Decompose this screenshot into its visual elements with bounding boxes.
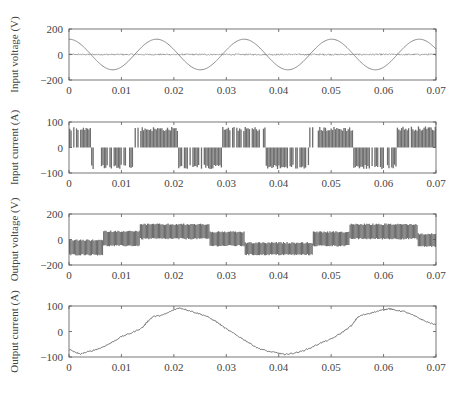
plot-area: [70, 224, 436, 256]
y-axis-label: Input current (A): [8, 110, 21, 185]
y-tick-label: 0: [58, 234, 64, 246]
subplot-1: 00.010.020.030.040.050.060.072000−200Inp…: [8, 16, 446, 96]
plot-area: [70, 126, 436, 169]
y-tick-label: 200: [47, 208, 64, 220]
x-tick-label: 0.01: [112, 84, 131, 96]
subplot-4: 00.010.020.030.040.050.060.071000−100Out…: [8, 290, 446, 373]
x-tick-label: 0.07: [426, 269, 446, 281]
plot-area: [69, 308, 436, 355]
y-tick-label: 0: [58, 326, 64, 338]
x-tick-label: 0.05: [322, 177, 342, 189]
x-tick-label: 0.04: [269, 177, 289, 189]
x-tick-label: 0.06: [374, 84, 394, 96]
x-tick-label: 0.03: [217, 177, 237, 189]
x-tick-label: 0.05: [322, 84, 342, 96]
y-tick-label: 0: [58, 142, 64, 154]
y-axis-label: Input voltage (V): [8, 16, 21, 93]
subplot-2: 00.010.020.030.040.050.060.071000−100Inp…: [8, 110, 446, 189]
series-line: [69, 308, 436, 355]
x-tick-label: 0.02: [164, 361, 183, 373]
y-axis-label: Output voltage (V): [8, 197, 21, 281]
y-tick-label: 200: [47, 23, 64, 35]
x-tick-label: 0: [66, 177, 72, 189]
x-tick-label: 0.04: [269, 361, 289, 373]
x-tick-label: 0.06: [374, 361, 394, 373]
x-tick-label: 0.03: [217, 361, 237, 373]
y-tick-label: −100: [40, 351, 63, 363]
figure: 00.010.020.030.040.050.060.072000−200Inp…: [0, 0, 463, 393]
noise-band: [69, 54, 436, 56]
x-tick-label: 0.01: [112, 269, 131, 281]
x-tick-label: 0.05: [322, 361, 342, 373]
x-tick-label: 0.07: [426, 84, 446, 96]
x-tick-label: 0.07: [426, 177, 446, 189]
y-tick-label: 0: [58, 49, 64, 61]
x-tick-label: 0.04: [269, 84, 289, 96]
x-tick-label: 0.02: [164, 84, 183, 96]
x-tick-label: 0.06: [374, 269, 394, 281]
y-tick-label: 100: [47, 300, 64, 312]
y-axis-label: Output current (A): [8, 290, 21, 373]
x-tick-label: 0.03: [217, 269, 237, 281]
y-tick-label: −100: [40, 167, 63, 179]
x-tick-label: 0.07: [426, 361, 446, 373]
x-tick-label: 0: [66, 84, 72, 96]
x-tick-label: 0.01: [112, 361, 131, 373]
x-tick-label: 0.03: [217, 84, 237, 96]
plots-canvas: 00.010.020.030.040.050.060.072000−200Inp…: [0, 0, 463, 393]
y-tick-label: −200: [40, 74, 63, 86]
axes-frame: [69, 306, 436, 357]
y-tick-label: 100: [47, 116, 64, 128]
x-tick-label: 0: [66, 269, 72, 281]
x-tick-label: 0.06: [374, 177, 394, 189]
x-tick-label: 0: [66, 361, 72, 373]
plot-area: [69, 39, 436, 70]
x-tick-label: 0.05: [322, 269, 342, 281]
subplot-3: 00.010.020.030.040.050.060.072000−200Out…: [8, 197, 446, 281]
x-tick-label: 0.02: [164, 177, 183, 189]
x-tick-label: 0.04: [269, 269, 289, 281]
x-tick-label: 0.02: [164, 269, 183, 281]
x-tick-label: 0.01: [112, 177, 131, 189]
y-tick-label: −200: [40, 259, 63, 271]
